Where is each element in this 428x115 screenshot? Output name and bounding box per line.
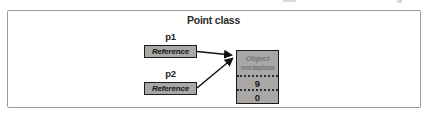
- scan-artifact: [397, 0, 402, 3]
- diagram-title: Point class: [7, 14, 420, 26]
- pointer-p1-label: p1: [144, 31, 197, 42]
- pointer-p2-reference-text: Reference: [152, 84, 189, 93]
- pointer-p2-reference-box: Reference: [144, 82, 197, 95]
- object-box: Object metadata 9 0: [236, 50, 279, 104]
- scan-artifact: [283, 0, 296, 2]
- pointer-p2-label: p2: [144, 68, 197, 79]
- point-class-figure: Point class p1 Reference p2 Reference Ob…: [0, 0, 428, 115]
- pointer-p1-reference-box: Reference: [144, 45, 197, 58]
- pointer-p1-reference-text: Reference: [152, 47, 189, 56]
- object-field-y: 0: [237, 91, 278, 103]
- object-metadata-header: Object metadata: [237, 51, 278, 75]
- object-field-x: 9: [237, 77, 278, 89]
